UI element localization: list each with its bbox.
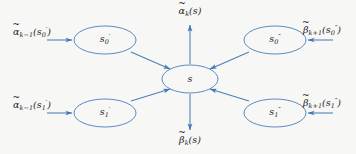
node-label-s: s (188, 74, 193, 84)
node-label-s0pp: s0″ (269, 34, 281, 46)
edge-label-beta-k+1-s1pp: ~βk+1(s1″) (303, 98, 341, 110)
arrow-s1pp-to-s (210, 89, 249, 101)
arrow-s0pp-to-s (210, 52, 249, 69)
edge-label-beta-k-s: ~βk(s) (179, 135, 201, 147)
diagram-canvas: s0′ s1′ s s0″ s1″ ~αk−1(s0′) ~αk−1(s1′) … (0, 0, 356, 154)
edge-label-alpha-k-1-s0p: ~αk−1(s0′) (13, 27, 51, 39)
arrow-s1p-to-s (131, 89, 170, 101)
edge-label-alpha-k-1-s1p: ~αk−1(s1′) (13, 100, 51, 112)
node-label-s0p: s0′ (100, 34, 111, 46)
node-label-s1pp: s1″ (269, 107, 281, 119)
arrow-s0p-to-s (131, 52, 170, 69)
edge-label-beta-k+1-s0pp: ~βk+1(s0″) (303, 25, 341, 37)
node-label-s1p: s1′ (100, 107, 111, 119)
edge-label-alpha-k-s: ~αk(s) (179, 6, 202, 18)
